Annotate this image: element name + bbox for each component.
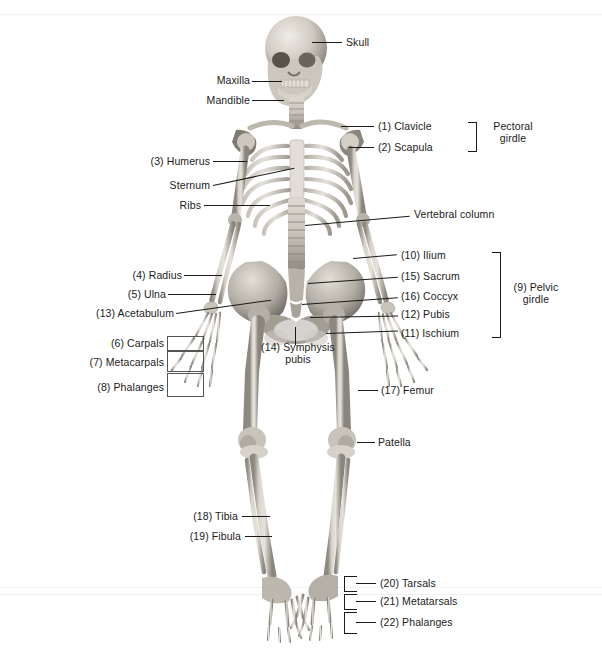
leader-mandible bbox=[252, 100, 284, 101]
pectoral-girdle-line2: girdle bbox=[500, 132, 526, 144]
leader-phalanges-foot bbox=[356, 622, 376, 623]
leader-fibula bbox=[245, 536, 272, 537]
symphysis-pubis-line1: (14) Symphysis bbox=[261, 341, 335, 353]
bracket-phalanges-foot bbox=[344, 612, 357, 634]
leader-humerus bbox=[213, 161, 247, 162]
skeleton-illustration bbox=[0, 0, 602, 660]
leader-tibia bbox=[242, 516, 270, 517]
leader-metatarsals bbox=[356, 601, 376, 602]
label-phalanges-hand: (8) Phalanges bbox=[50, 381, 164, 393]
label-patella: Patella bbox=[378, 436, 411, 448]
leader-radius bbox=[184, 275, 222, 276]
label-coccyx: (16) Coccyx bbox=[401, 290, 458, 302]
label-metatarsals: (21) Metatarsals bbox=[380, 595, 457, 607]
label-humerus: (3) Humerus bbox=[125, 155, 210, 167]
symphysis-pubis-line2: pubis bbox=[285, 353, 311, 365]
label-maxilla: Maxilla bbox=[150, 74, 250, 86]
label-sternum: Sternum bbox=[125, 179, 210, 191]
label-carpals: (6) Carpals bbox=[58, 337, 164, 349]
label-pelvic-girdle: (9) Pelvic girdle bbox=[504, 281, 568, 305]
label-phalanges-foot: (22) Phalanges bbox=[380, 616, 453, 628]
leader-clavicle bbox=[341, 126, 374, 127]
label-skull: Skull bbox=[346, 36, 369, 48]
pelvic-girdle-line1: (9) Pelvic bbox=[514, 281, 559, 293]
bracket-pelvic-girdle bbox=[492, 252, 501, 338]
leader-femur bbox=[358, 390, 378, 391]
label-clavicle: (1) Clavicle bbox=[378, 120, 432, 132]
bracket-phalanges-hand bbox=[167, 373, 204, 397]
skeleton-figure: Skull Maxilla Mandible (1) Clavicle (2) … bbox=[0, 0, 602, 660]
leader-ulna bbox=[168, 294, 216, 295]
bracket-tarsals bbox=[344, 576, 357, 592]
label-mandible: Mandible bbox=[150, 94, 250, 106]
bracket-metacarpals bbox=[167, 350, 204, 372]
label-tibia: (18) Tibia bbox=[150, 510, 238, 522]
label-pectoral-girdle: Pectoral girdle bbox=[482, 120, 544, 144]
label-ilium: (10) Ilium bbox=[401, 249, 446, 261]
label-pubis: (12) Pubis bbox=[401, 308, 450, 320]
leader-ribs bbox=[204, 205, 270, 206]
label-fibula: (19) Fibula bbox=[150, 530, 241, 542]
label-radius: (4) Radius bbox=[80, 269, 182, 281]
leader-scapula bbox=[349, 147, 374, 148]
bracket-metatarsals bbox=[344, 594, 357, 610]
label-tarsals: (20) Tarsals bbox=[380, 577, 436, 589]
label-femur: (17) Femur bbox=[381, 384, 434, 396]
label-metacarpals: (7) Metacarpals bbox=[40, 356, 164, 368]
leader-skull bbox=[312, 42, 342, 43]
label-ribs: Ribs bbox=[125, 199, 201, 211]
label-sacrum: (15) Sacrum bbox=[401, 270, 460, 282]
pelvic-girdle-line2: girdle bbox=[523, 293, 549, 305]
label-ulna: (5) Ulna bbox=[80, 288, 166, 300]
leader-maxilla bbox=[252, 81, 282, 82]
label-scapula: (2) Scapula bbox=[378, 141, 433, 153]
label-ischium: (11) Ischium bbox=[401, 327, 459, 339]
label-acetabulum: (13) Acetabulum bbox=[60, 307, 174, 319]
leader-patella bbox=[357, 442, 375, 443]
label-symphysis-pubis: (14) Symphysis pubis bbox=[252, 341, 344, 365]
pectoral-girdle-line1: Pectoral bbox=[493, 120, 532, 132]
label-vertebral-column: Vertebral column bbox=[414, 208, 494, 220]
bracket-pectoral-girdle bbox=[468, 122, 477, 152]
leader-tarsals bbox=[356, 583, 376, 584]
